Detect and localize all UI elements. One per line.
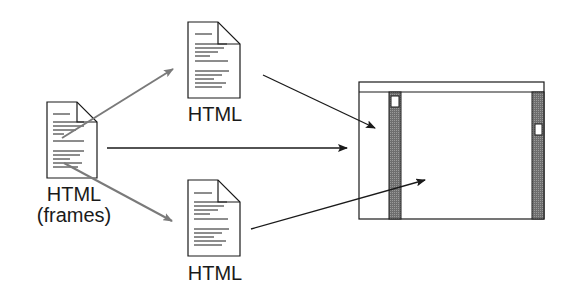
top-html-document-icon xyxy=(188,22,240,98)
frameset-label: HTML (frames) xyxy=(36,184,112,226)
arrow-top-to-left-frame xyxy=(263,75,375,128)
bottom-html-document-icon xyxy=(188,180,240,256)
browser-window-diagram xyxy=(359,82,544,219)
right-frame-scrollbar xyxy=(532,92,544,219)
frameset-label-title: HTML xyxy=(36,184,112,205)
frameset-label-sub: (frames) xyxy=(36,205,112,226)
bottom-doc-label: HTML xyxy=(180,263,250,284)
left-frame-scrollbar xyxy=(389,92,401,219)
top-doc-label: HTML xyxy=(180,104,250,125)
diagram-canvas xyxy=(0,0,572,300)
